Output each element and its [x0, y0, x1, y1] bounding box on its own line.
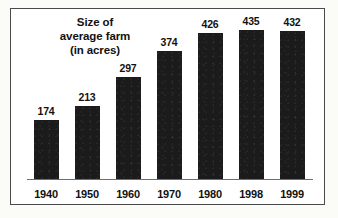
bar [157, 51, 182, 179]
bar [75, 106, 100, 179]
bar [198, 33, 223, 179]
bar-group: 374 [150, 21, 188, 179]
bar-value-label: 432 [273, 16, 311, 28]
bar-group: 426 [191, 21, 229, 179]
bar-group: 213 [68, 21, 106, 179]
chart-figure: Size of average farm (in acres) 174 213 … [0, 0, 338, 218]
bar [239, 30, 264, 179]
x-axis-tick-label: 1998 [232, 188, 270, 200]
x-axis-tick-label: 1980 [191, 188, 229, 200]
bar-value-label: 374 [150, 36, 188, 48]
bar-value-label: 426 [191, 18, 229, 30]
bar-value-label: 435 [232, 15, 270, 27]
bar-group: 432 [273, 21, 311, 179]
bar-group: 174 [27, 21, 65, 179]
chart-frame-border: Size of average farm (in acres) 174 213 … [10, 8, 325, 205]
bar [280, 31, 305, 179]
x-axis-tick-label: 1999 [273, 188, 311, 200]
bar-group: 297 [109, 21, 147, 179]
bar-value-label: 174 [27, 105, 65, 117]
bar [116, 77, 141, 179]
x-axis-tick-label: 1940 [27, 188, 65, 200]
bar [34, 120, 59, 179]
x-axis-tick-label: 1960 [109, 188, 147, 200]
bar-value-label: 213 [68, 91, 106, 103]
x-axis-tick-label: 1970 [150, 188, 188, 200]
x-axis-tick-label: 1950 [68, 188, 106, 200]
bar-value-label: 297 [109, 62, 147, 74]
bar-group: 435 [232, 21, 270, 179]
x-axis-line [27, 179, 313, 181]
plot-area: 174 213 297 374 426 435 [11, 9, 326, 206]
